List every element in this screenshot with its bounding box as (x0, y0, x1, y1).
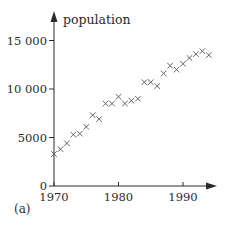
x-tick-label: 1970 (39, 190, 68, 204)
data-point-x-icon (200, 48, 206, 54)
data-point-x-icon (122, 101, 128, 107)
y-tick-label: 15 000 (7, 34, 47, 48)
data-point-x-icon (174, 67, 180, 73)
data-point-x-icon (135, 96, 141, 102)
y-axis-title: population (63, 12, 131, 27)
data-point-x-icon (77, 131, 83, 137)
y-axis-arrow-icon (51, 11, 58, 22)
data-point-x-icon (64, 141, 70, 147)
data-point-x-icon (154, 83, 160, 89)
axis-ticks: 0500010 00015 000197019801990 (7, 34, 198, 205)
data-point-x-icon (109, 101, 115, 107)
panel-label: (a) (14, 202, 31, 216)
axes (51, 11, 218, 190)
data-point-x-icon (187, 55, 193, 61)
data-point-x-icon (71, 132, 77, 138)
data-point-x-icon (58, 146, 64, 152)
y-tick-label: 10 000 (7, 82, 47, 96)
data-point-x-icon (129, 98, 135, 104)
data-point-x-icon (167, 63, 173, 69)
x-tick-label: 1990 (168, 190, 197, 204)
data-point-x-icon (161, 71, 167, 77)
data-point-x-icon (96, 116, 102, 122)
x-tick-label: 1980 (104, 190, 133, 204)
y-tick-label: 5000 (18, 131, 47, 145)
data-point-x-icon (103, 101, 109, 107)
data-point-x-icon (90, 112, 96, 118)
data-point-x-icon (83, 124, 89, 130)
data-point-x-icon (142, 79, 148, 85)
data-point-x-icon (116, 94, 122, 100)
x-axis-arrow-icon (206, 183, 217, 190)
data-points (51, 48, 211, 156)
data-point-x-icon (206, 52, 212, 58)
data-point-x-icon (193, 51, 199, 57)
data-point-x-icon (148, 79, 154, 85)
data-point-x-icon (180, 61, 186, 67)
population-scatter-chart: 0500010 00015 000197019801990 population… (0, 0, 229, 226)
